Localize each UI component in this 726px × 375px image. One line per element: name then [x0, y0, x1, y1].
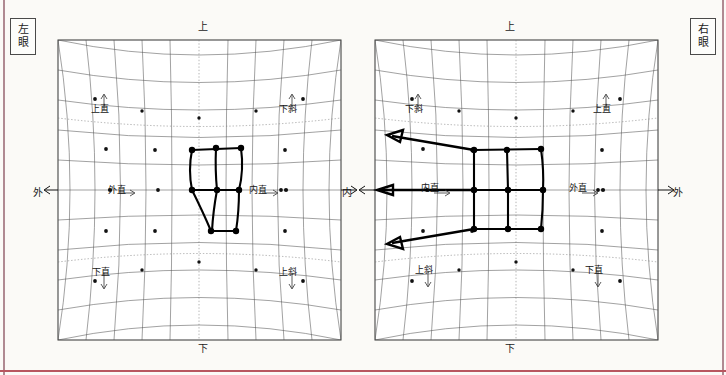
right-eye-chart	[359, 40, 674, 340]
left-inner-axis-arrow	[341, 186, 357, 194]
right-inner-axis-arrow	[359, 186, 375, 194]
left-eye-chart	[44, 40, 357, 340]
right-label-superior-oblique: 上斜	[415, 263, 432, 276]
left-label-inferior-rectus: 下直	[92, 265, 109, 278]
left-label-medial-rectus: 内直	[249, 183, 266, 196]
left-label-superior-oblique: 上斜	[279, 265, 296, 278]
right-outer-axis-arrow	[658, 186, 674, 194]
left-label-superior-rectus: 上直	[91, 102, 108, 115]
right-label-superior-rectus: 上直	[593, 102, 610, 115]
left-label-lateral-rectus: 外直	[108, 183, 125, 196]
page-root: 左 眼 右 眼 上 下 外 上 下 外 内	[0, 0, 726, 375]
right-label-inferior-oblique: 下斜	[405, 102, 422, 115]
right-label-inferior-rectus: 下直	[585, 263, 602, 276]
left-label-inferior-oblique: 下斜	[279, 102, 296, 115]
right-label-lateral-rectus: 外直	[569, 181, 586, 194]
right-label-medial-rectus: 内直	[421, 181, 438, 194]
left-outer-axis-arrow	[44, 186, 58, 194]
